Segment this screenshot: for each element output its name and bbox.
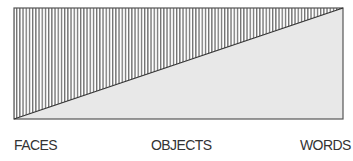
label-words: WORDS	[300, 137, 351, 153]
label-objects: OBJECTS	[151, 137, 211, 153]
label-faces: FACES	[14, 137, 57, 153]
